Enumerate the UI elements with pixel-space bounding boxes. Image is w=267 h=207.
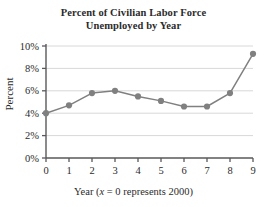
x-tick-label: 8 bbox=[227, 165, 232, 176]
unemployment-line-chart: Percent of Civilian Labor Force Unemploy… bbox=[0, 0, 267, 207]
data-point bbox=[181, 103, 187, 109]
data-point bbox=[66, 102, 72, 108]
y-tick-label: 6% bbox=[25, 85, 39, 96]
x-tick-label: 6 bbox=[181, 165, 186, 176]
x-tick-label: 3 bbox=[112, 165, 117, 176]
data-series-line bbox=[46, 54, 253, 113]
x-tick-label: 7 bbox=[204, 165, 209, 176]
y-tick-labels: 0%2%4%6%8%10% bbox=[20, 41, 40, 164]
y-tick-label: 0% bbox=[25, 153, 39, 164]
x-tick-label: 5 bbox=[158, 165, 163, 176]
data-point bbox=[43, 110, 49, 116]
x-tick-label: 1 bbox=[66, 165, 71, 176]
y-tick-label: 10% bbox=[20, 41, 40, 52]
y-tick-label: 8% bbox=[25, 63, 39, 74]
data-point bbox=[250, 51, 256, 57]
x-tick-label: 0 bbox=[43, 165, 48, 176]
x-tick-labels: 0123456789 bbox=[43, 165, 255, 176]
data-point bbox=[204, 103, 210, 109]
data-point bbox=[112, 88, 118, 94]
plot-area: 0%2%4%6%8%10% 0123456789 bbox=[0, 0, 267, 207]
data-point bbox=[227, 90, 233, 96]
data-point bbox=[89, 90, 95, 96]
data-point-markers bbox=[43, 51, 256, 117]
x-tick-label: 2 bbox=[89, 165, 94, 176]
x-tick-label: 9 bbox=[250, 165, 255, 176]
y-tick-label: 4% bbox=[25, 108, 39, 119]
x-tick-label: 4 bbox=[135, 165, 141, 176]
data-point bbox=[135, 93, 141, 99]
y-tick-label: 2% bbox=[25, 130, 39, 141]
data-point bbox=[158, 98, 164, 104]
gridlines bbox=[46, 46, 253, 136]
